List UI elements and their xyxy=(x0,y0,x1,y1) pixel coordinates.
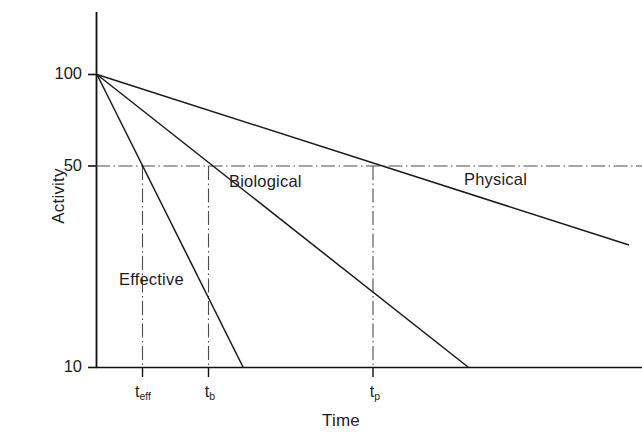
reference-lines-group xyxy=(96,166,642,367)
x-tick-label-t-b: tb xyxy=(180,383,240,401)
series-label-effective: Effective xyxy=(119,270,184,289)
plot-canvas xyxy=(0,0,642,444)
series-line-physical xyxy=(97,75,629,246)
y-tick-label-50: 50 xyxy=(32,156,82,175)
series-line-effective xyxy=(97,75,243,368)
x-tick-label-t-eff: teff xyxy=(113,383,173,401)
x-tick-label-t-p-sub: p xyxy=(374,390,380,402)
series-group xyxy=(97,75,629,368)
x-axis-title: Time xyxy=(281,411,401,431)
chart-figure: Activity Time 100 50 10 teff tb tp Physi… xyxy=(0,0,642,444)
y-tick-label-100: 100 xyxy=(32,64,82,83)
y-ticks-group xyxy=(88,75,97,368)
x-tick-label-t-eff-sub: eff xyxy=(139,390,150,402)
series-label-biological: Biological xyxy=(229,172,302,191)
axes-group xyxy=(96,12,642,368)
y-tick-label-10: 10 xyxy=(32,357,82,376)
x-tick-label-t-b-sub: b xyxy=(209,390,215,402)
x-ticks-group xyxy=(143,368,374,378)
x-tick-label-t-p: tp xyxy=(345,383,405,401)
series-line-biological xyxy=(97,75,468,368)
series-label-physical: Physical xyxy=(464,170,527,189)
